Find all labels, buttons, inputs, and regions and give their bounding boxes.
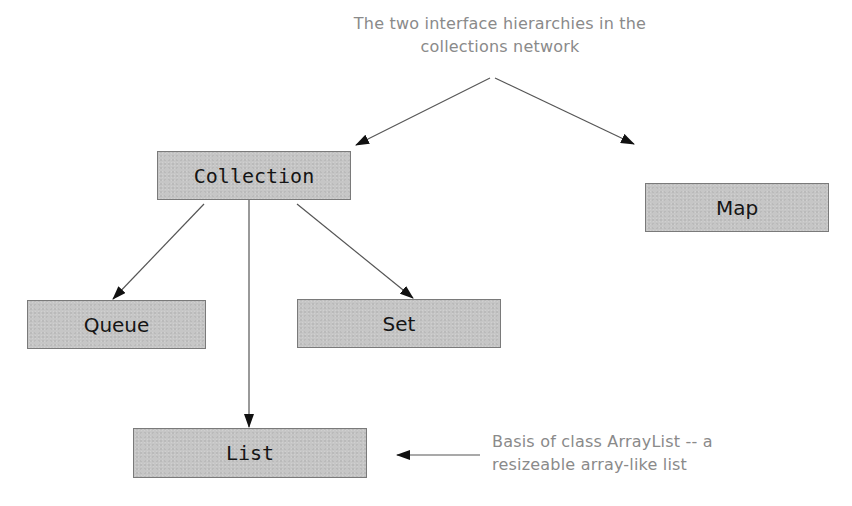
collections-diagram: The two interface hierarchies in the col… (0, 0, 852, 506)
node-map: Map (645, 183, 829, 232)
edge-annotation-to-collection (356, 78, 490, 145)
node-collection-label: Collection (194, 164, 314, 188)
annotation-bottom: Basis of class ArrayList -- a resizeable… (492, 430, 812, 476)
edge-collection-to-queue (113, 204, 204, 299)
node-collection: Collection (157, 151, 351, 200)
annotation-top-line2: collections network (320, 35, 680, 58)
node-map-label: Map (716, 196, 758, 220)
annotation-bottom-line1: Basis of class ArrayList -- a (492, 430, 812, 453)
node-list-label: List (226, 441, 274, 465)
node-queue-label: Queue (84, 313, 150, 337)
node-list: List (133, 428, 367, 478)
node-queue: Queue (27, 300, 206, 349)
annotation-top: The two interface hierarchies in the col… (320, 12, 680, 58)
node-set: Set (297, 299, 501, 348)
node-set-label: Set (383, 312, 416, 336)
annotation-top-line1: The two interface hierarchies in the (320, 12, 680, 35)
annotation-bottom-line2: resizeable array-like list (492, 453, 812, 476)
edge-collection-to-set (297, 204, 413, 298)
edge-annotation-to-map (495, 78, 634, 144)
